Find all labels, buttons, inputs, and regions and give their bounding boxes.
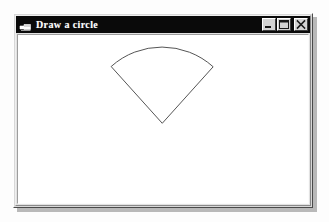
application-window: Draw a circle [13, 13, 313, 208]
pie-sector-path [111, 47, 213, 123]
window-frame-inner: Draw a circle [15, 15, 311, 206]
window-title: Draw a circle [36, 20, 98, 30]
close-button[interactable] [294, 18, 308, 31]
maximize-icon [278, 19, 290, 30]
close-icon [295, 19, 307, 30]
vb-form-icon [19, 20, 32, 32]
maximize-button[interactable] [277, 18, 291, 31]
scan-page-background: Draw a circle [0, 0, 329, 222]
pie-sector-shape [18, 35, 309, 204]
minimize-icon [263, 19, 275, 30]
title-bar[interactable]: Draw a circle [16, 16, 310, 33]
drawing-client-area[interactable] [17, 34, 309, 204]
minimize-button[interactable] [262, 18, 276, 31]
caption-button-group [262, 18, 308, 31]
